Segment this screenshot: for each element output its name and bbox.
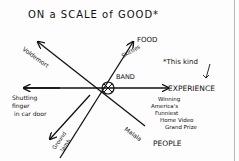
- annotation-shutting-2: finger: [12, 102, 30, 110]
- annotation-experience-4: Home Video: [160, 117, 194, 123]
- label-experience: EXPERIENCE: [168, 84, 215, 93]
- annotation-experience-2: America's: [151, 103, 178, 109]
- annotation-shutting-1: Shutting: [12, 94, 38, 102]
- frame-edge: [234, 0, 235, 161]
- annotation-shutting-3: in car door: [14, 110, 47, 117]
- diagram-canvas: ON a SCALE of GOOD* BAND FOOD Skittles E…: [0, 0, 239, 161]
- scale-diagram: ON a SCALE of GOOD* BAND FOOD Skittles E…: [0, 0, 239, 161]
- annotation-experience-1: Winning: [158, 96, 180, 103]
- annotation-malala: Malala: [123, 125, 143, 142]
- center-label: BAND: [116, 73, 135, 81]
- annotation-experience-5: Grand Prize: [165, 124, 198, 130]
- axis-ground-lamb: [50, 95, 90, 139]
- axis-food: [60, 42, 133, 158]
- label-people: PEOPLE: [153, 139, 182, 148]
- page-title: ON a SCALE of GOOD*: [28, 9, 159, 20]
- footnote: *This kind: [163, 58, 198, 66]
- footnote-arrow-icon: [203, 64, 210, 78]
- annotation-experience-3: Funniest: [155, 110, 179, 116]
- label-food: FOOD: [137, 36, 157, 44]
